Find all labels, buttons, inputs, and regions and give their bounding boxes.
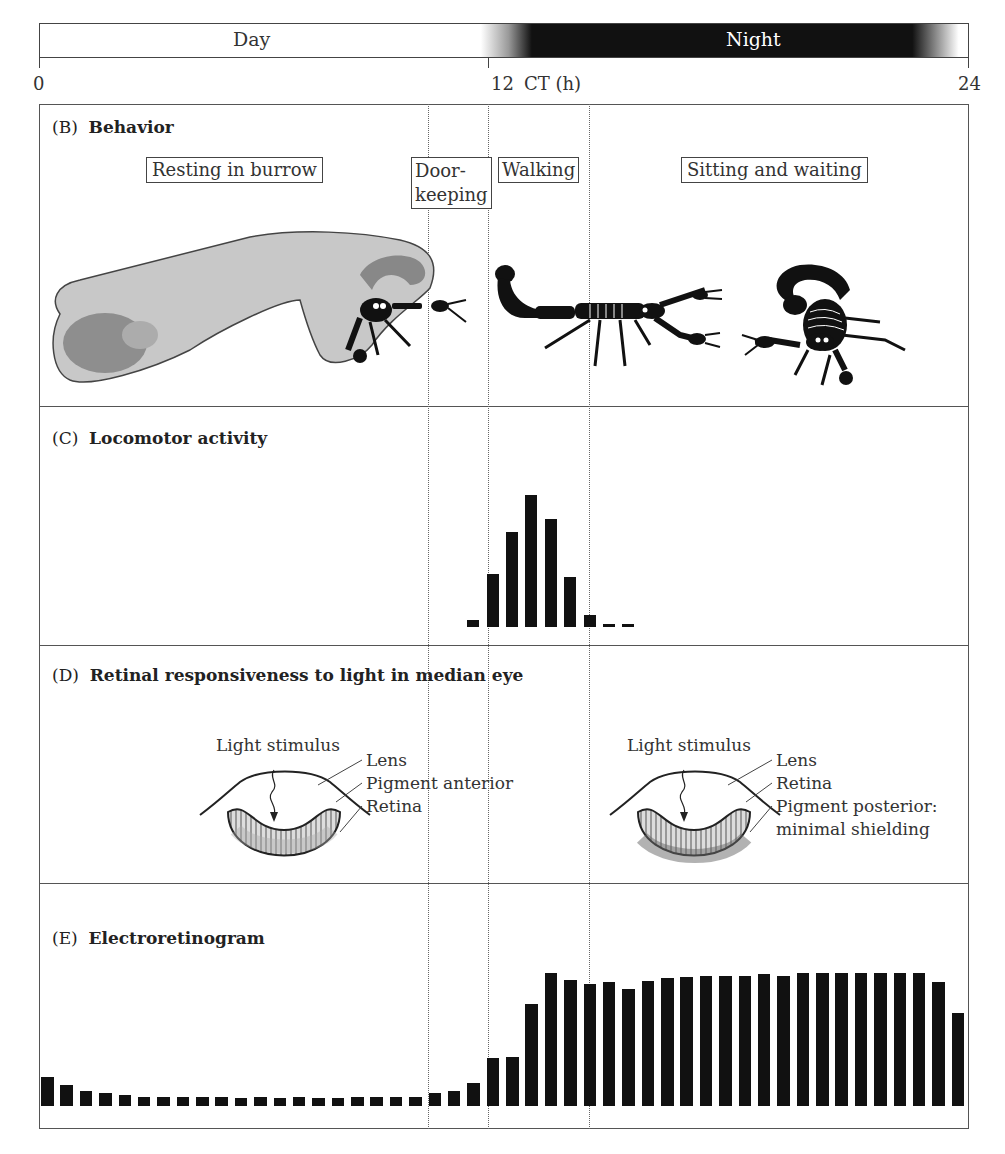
bar [816,973,829,1106]
bar [835,973,848,1106]
bar [680,977,693,1106]
bar [487,1058,500,1106]
bar [797,973,810,1106]
bar [506,1057,519,1106]
bar [564,980,577,1106]
bar [351,1097,364,1106]
bar [119,1095,132,1106]
bar [777,976,790,1106]
bar [622,989,635,1106]
bar [448,1091,461,1106]
bar [370,1097,383,1106]
bar [874,973,887,1106]
bar [525,1004,538,1106]
bar [584,984,597,1106]
bar [235,1098,248,1106]
bar [661,978,674,1106]
bar [196,1097,209,1106]
bar [177,1097,190,1106]
bar [603,982,616,1106]
bar [332,1098,345,1106]
bar [157,1097,170,1106]
bar [952,1013,965,1106]
bar [254,1097,267,1106]
bar [60,1085,73,1106]
bar [99,1093,112,1106]
bar [429,1093,442,1106]
bar [545,973,558,1106]
bar [467,1083,480,1106]
bar [855,973,868,1106]
bar [138,1097,151,1106]
bar [41,1077,54,1106]
bar [312,1098,325,1106]
panel-e-title: (E) Electroretinogram [52,928,265,948]
bar [700,976,713,1106]
bar [642,981,655,1106]
bar [274,1098,287,1106]
bar [80,1091,93,1106]
bar [409,1097,422,1106]
bar [739,976,752,1106]
bar [932,982,945,1106]
bar [293,1097,306,1106]
bar [913,973,926,1106]
bar [758,974,771,1106]
bar [894,973,907,1106]
bar [215,1097,228,1106]
bar [719,976,732,1106]
bar [390,1097,403,1106]
